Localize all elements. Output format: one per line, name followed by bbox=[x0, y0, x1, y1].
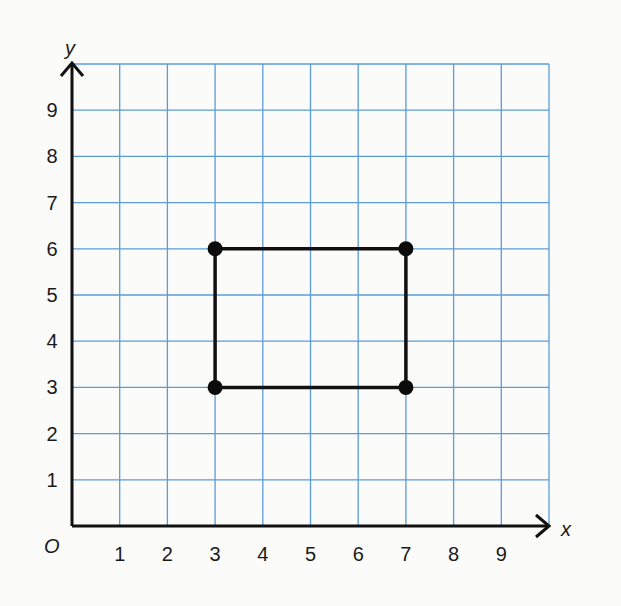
y-tick-label: 3 bbox=[46, 376, 57, 398]
y-tick-label: 1 bbox=[46, 469, 57, 491]
y-tick-label: 6 bbox=[46, 238, 57, 260]
y-axis-label: y bbox=[63, 37, 76, 59]
y-tick-label: 4 bbox=[46, 330, 57, 352]
x-tick-label: 5 bbox=[305, 543, 316, 565]
origin-label: O bbox=[44, 535, 60, 557]
grid-lines bbox=[72, 64, 549, 526]
data-point bbox=[208, 241, 223, 256]
x-tick-label: 7 bbox=[400, 543, 411, 565]
x-tick-label: 4 bbox=[257, 543, 268, 565]
y-tick-label: 2 bbox=[46, 423, 57, 445]
x-axis-label: x bbox=[560, 518, 572, 540]
x-tick-labels: 123456789 bbox=[114, 543, 507, 565]
x-tick-label: 8 bbox=[448, 543, 459, 565]
y-tick-labels: 123456789 bbox=[46, 99, 57, 491]
y-tick-label: 8 bbox=[46, 145, 57, 167]
y-tick-label: 5 bbox=[46, 284, 57, 306]
x-tick-label: 2 bbox=[162, 543, 173, 565]
y-tick-label: 9 bbox=[46, 99, 57, 121]
coordinate-plane: x y O 123456789 123456789 bbox=[0, 0, 621, 606]
x-tick-label: 1 bbox=[114, 543, 125, 565]
x-tick-label: 6 bbox=[353, 543, 364, 565]
x-tick-label: 9 bbox=[496, 543, 507, 565]
data-point bbox=[398, 380, 413, 395]
y-tick-label: 7 bbox=[46, 192, 57, 214]
axes bbox=[61, 63, 549, 537]
data-point bbox=[398, 241, 413, 256]
data-point bbox=[208, 380, 223, 395]
x-tick-label: 3 bbox=[210, 543, 221, 565]
